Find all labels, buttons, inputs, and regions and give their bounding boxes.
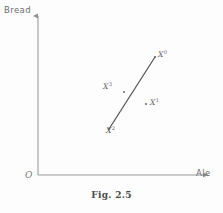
- point-marker-x3: [123, 91, 125, 93]
- point-marker-x1: [145, 103, 147, 105]
- x-axis-label: Ale: [196, 168, 211, 178]
- point-marker-x0: [154, 56, 156, 58]
- figure-container: Bread Ale O X0 X3 X1 X2 Fig. 2.5: [0, 0, 223, 213]
- plot-area: [0, 0, 223, 213]
- point-label-x2-superscript: 2: [111, 125, 115, 131]
- budget-line-segment: [109, 57, 155, 129]
- point-label-x1-superscript: 1: [155, 97, 159, 103]
- point-label-x0: X0: [158, 50, 167, 59]
- point-label-x3-superscript: 3: [108, 81, 112, 87]
- figure-caption: Fig. 2.5: [0, 190, 223, 200]
- y-axis-label: Bread: [4, 5, 31, 15]
- point-label-x0-superscript: 0: [163, 49, 167, 55]
- point-label-x3: X3: [103, 82, 112, 91]
- point-label-x1: X1: [150, 98, 159, 107]
- point-label-x2: X2: [106, 126, 115, 135]
- origin-label: O: [25, 170, 33, 180]
